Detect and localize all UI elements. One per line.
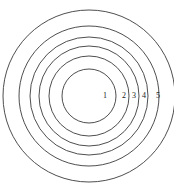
ring-label-1: 1 — [103, 91, 107, 100]
ring-label-4: 4 — [142, 91, 146, 100]
concentric-circles-figure: 1 2 3 4 5 — [0, 0, 174, 190]
ring-label-5: 5 — [156, 91, 160, 100]
figure-canvas: 1 2 3 4 5 — [0, 0, 174, 190]
ring-label-3: 3 — [132, 91, 136, 100]
ring-label-2: 2 — [122, 91, 126, 100]
